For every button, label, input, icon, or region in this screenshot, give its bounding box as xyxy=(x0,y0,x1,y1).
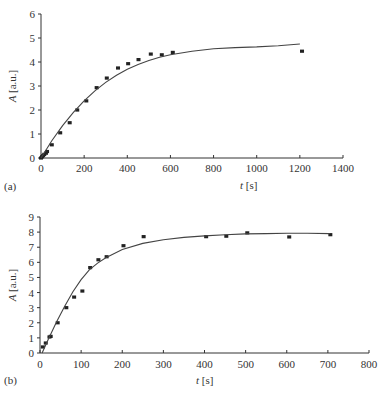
figure: 02004006008001000120014000123456t [s]A [… xyxy=(0,0,387,399)
y-axis-label: A [a.u.] xyxy=(6,269,18,303)
data-point xyxy=(171,51,175,54)
x-tick-label: 700 xyxy=(320,358,337,370)
y-tick-label: 5 xyxy=(29,271,35,283)
y-tick-label: 8 xyxy=(29,226,35,238)
y-tick-label: 3 xyxy=(30,80,36,92)
data-point xyxy=(149,52,153,55)
data-point xyxy=(68,121,72,124)
data-point xyxy=(287,235,291,238)
x-tick-label: 1200 xyxy=(289,162,312,174)
x-tick-label: 100 xyxy=(73,358,90,370)
fit-curve xyxy=(42,233,330,353)
y-tick-label: 2 xyxy=(30,104,36,116)
x-tick-label: 400 xyxy=(119,162,136,174)
data-point xyxy=(72,295,76,298)
x-tick-label: 800 xyxy=(361,358,378,370)
data-point xyxy=(121,244,125,247)
panel-label: (b) xyxy=(4,374,17,387)
y-axis-label: A [a.u.] xyxy=(6,70,18,104)
panel-label: (a) xyxy=(4,180,17,193)
data-points xyxy=(41,231,332,348)
data-points xyxy=(39,50,304,160)
x-tick-label: 300 xyxy=(155,358,172,370)
x-tick-label: 200 xyxy=(114,358,131,370)
chart-panel-a: 02004006008001000120014000123456t [s]A [… xyxy=(4,8,355,193)
data-point xyxy=(137,58,141,61)
data-point xyxy=(126,62,130,65)
x-tick-label: 600 xyxy=(162,162,179,174)
data-point xyxy=(142,235,146,238)
y-tick-label: 3 xyxy=(29,302,35,314)
x-tick-label: 600 xyxy=(279,358,296,370)
y-tick-label: 0 xyxy=(29,347,35,359)
data-point xyxy=(105,76,109,79)
y-tick-label: 6 xyxy=(29,256,35,268)
y-tick-label: 1 xyxy=(29,332,35,344)
y-tick-label: 2 xyxy=(29,317,35,329)
y-tick-label: 5 xyxy=(30,32,36,44)
y-tick-label: 1 xyxy=(30,128,36,140)
y-tick-label: 7 xyxy=(29,241,35,253)
fit-curve xyxy=(41,44,300,158)
y-tick-label: 0 xyxy=(30,152,36,164)
y-tick-label: 6 xyxy=(30,8,36,20)
x-tick-label: 0 xyxy=(38,162,44,174)
y-tick-label: 4 xyxy=(29,287,35,299)
data-point xyxy=(116,66,120,69)
axes: 02004006008001000120014000123456 xyxy=(30,8,355,174)
y-tick-label: 9 xyxy=(29,211,35,223)
x-tick-label: 200 xyxy=(76,162,93,174)
y-tick-label: 4 xyxy=(30,56,36,68)
x-tick-label: 1400 xyxy=(332,162,355,174)
data-point xyxy=(300,50,304,53)
x-axis-label: t [s] xyxy=(240,179,257,191)
data-point xyxy=(80,289,84,292)
x-tick-label: 400 xyxy=(196,358,213,370)
x-tick-label: 0 xyxy=(37,358,43,370)
x-tick-label: 800 xyxy=(205,162,222,174)
x-tick-label: 500 xyxy=(237,358,254,370)
data-point xyxy=(96,258,100,261)
x-tick-label: 1000 xyxy=(246,162,269,174)
x-axis-label: t [s] xyxy=(196,374,213,386)
chart-panel-b: 01002003004005006007008000123456789t [s]… xyxy=(4,211,378,387)
